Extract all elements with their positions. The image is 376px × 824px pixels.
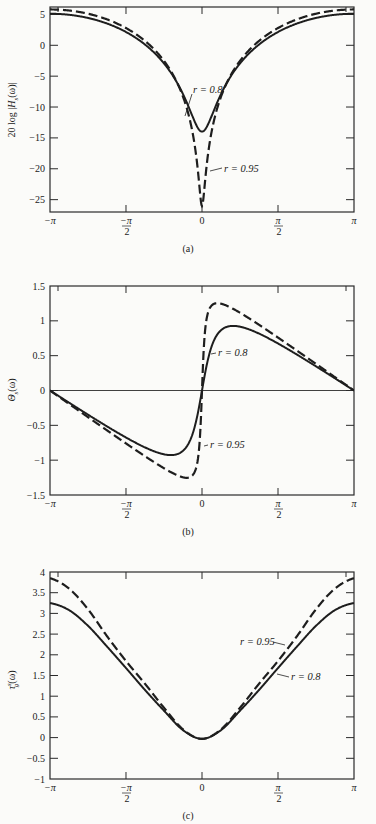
y-tick-label: 1: [40, 691, 45, 702]
y-tick-label: −0.5: [27, 420, 45, 431]
y-tick-label: 2.5: [33, 629, 46, 640]
y-tick-label: −1.5: [27, 490, 45, 501]
x-tick-label: 0: [200, 215, 205, 226]
svg-text:π: π: [275, 782, 281, 793]
y-tick-label: 1.5: [33, 670, 46, 681]
svg-text:0: 0: [200, 782, 205, 793]
svg-text:2: 2: [277, 509, 282, 520]
x-tick-label: π: [351, 782, 357, 793]
x-tick-label: π2: [274, 782, 283, 804]
svg-text:−π: −π: [44, 215, 57, 226]
x-tick-label: −π2: [120, 782, 133, 804]
svg-text:π: π: [351, 215, 357, 226]
series-annotation: r = 0.8: [218, 347, 248, 358]
x-tick-label: 0: [200, 498, 205, 509]
chart-panel-c: 43.532.521.510.50−0.5−1−π−π20π2πr = 0.95…: [5, 567, 357, 823]
y-tick-label: −0.5: [27, 753, 45, 764]
svg-text:2: 2: [277, 793, 282, 804]
y-tick-label: 3: [40, 608, 45, 619]
y-tick-label: 0.5: [33, 711, 46, 722]
x-tick-label: π2: [274, 498, 283, 520]
svg-text:−π: −π: [44, 782, 57, 793]
svg-text:−π: −π: [44, 498, 57, 509]
y-tick-label: 1: [40, 315, 45, 326]
y-axis-label: τsg(ω): [5, 670, 20, 689]
y-tick-label: 0: [40, 732, 45, 743]
svg-text:π: π: [275, 498, 281, 509]
y-axis-label: 20 log |Hs(ω)|: [6, 83, 20, 138]
y-tick-label: −1: [34, 455, 45, 466]
y-tick-label: −15: [29, 132, 45, 143]
x-tick-label: −π: [44, 215, 57, 226]
panel-caption: (a): [182, 243, 193, 255]
annotation-leader: [210, 168, 222, 171]
svg-text:2: 2: [277, 226, 282, 237]
x-tick-label: π: [351, 498, 357, 509]
svg-text:π: π: [351, 782, 357, 793]
series-r095-dashed: [50, 578, 354, 739]
svg-text:−π: −π: [120, 782, 133, 793]
svg-text:0: 0: [200, 215, 205, 226]
y-tick-label: 0: [40, 385, 45, 396]
chart-panel-b: 1.510.50−0.5−1−1.5−π−π20π2πr = 0.8r = 0.…: [6, 281, 357, 539]
x-tick-label: π2: [274, 215, 283, 237]
svg-text:π: π: [275, 215, 281, 226]
panel-caption: (c): [182, 810, 193, 822]
plot-frame: [50, 7, 354, 212]
series-annotation: r = 0.8: [291, 671, 321, 682]
x-tick-label: 0: [200, 782, 205, 793]
svg-text:0: 0: [200, 498, 205, 509]
annotation-leader: [204, 445, 208, 446]
y-tick-label: 2: [40, 649, 45, 660]
svg-text:−π: −π: [120, 215, 133, 226]
x-tick-label: −π2: [120, 215, 133, 237]
y-tick-label: −5: [34, 71, 45, 82]
y-tick-label: −20: [29, 163, 45, 174]
y-axis-label: Θs(ω): [6, 378, 20, 401]
figure: 50−5−10−15−20−25−π−π20π2πr = 0.8r = 0.95…: [0, 0, 376, 824]
svg-text:2: 2: [124, 793, 129, 804]
svg-text:−π: −π: [120, 498, 133, 509]
y-tick-label: 4: [40, 567, 45, 578]
y-tick-label: −10: [29, 102, 45, 113]
x-tick-label: −π: [44, 782, 57, 793]
svg-text:π: π: [351, 498, 357, 509]
svg-text:2: 2: [124, 509, 129, 520]
annotation-leader: [211, 353, 216, 354]
series-annotation: r = 0.95: [210, 439, 245, 450]
y-tick-label: 0: [40, 40, 45, 51]
y-tick-label: −25: [29, 194, 45, 205]
y-tick-label: 5: [40, 9, 45, 20]
x-tick-label: −π2: [120, 498, 133, 520]
y-tick-label: 0.5: [33, 350, 46, 361]
chart-panel-a: 50−5−10−15−20−25−π−π20π2πr = 0.8r = 0.95…: [6, 7, 357, 255]
series-annotation: r = 0.95: [240, 636, 275, 647]
annotation-leader: [273, 642, 285, 645]
series-annotation: r = 0.95: [224, 163, 259, 174]
svg-text:2: 2: [124, 226, 129, 237]
panel-caption: (b): [182, 526, 194, 538]
series-r095-dashed: [50, 9, 354, 205]
x-tick-label: −π: [44, 498, 57, 509]
y-tick-label: 1.5: [33, 281, 46, 292]
x-tick-label: π: [351, 215, 357, 226]
series-annotation: r = 0.8: [193, 84, 223, 95]
annotation-leader: [277, 674, 289, 677]
series-r08-solid: [50, 14, 354, 132]
y-tick-label: 3.5: [33, 587, 46, 598]
